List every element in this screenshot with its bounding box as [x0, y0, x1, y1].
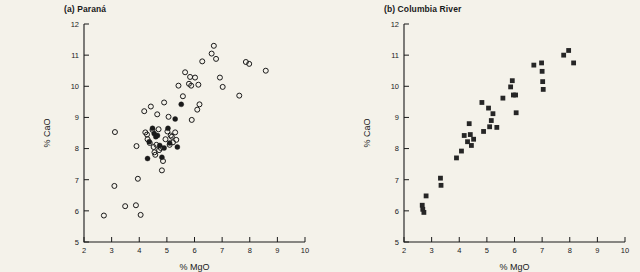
x-tick-label: 3 — [430, 246, 434, 255]
y-tick-label: 6 — [395, 207, 399, 216]
data-point-filled-square — [469, 143, 474, 148]
data-point-open-circle — [135, 176, 140, 181]
x-tick-label: 2 — [402, 246, 406, 255]
x-tick-label: 6 — [512, 246, 516, 255]
data-point-filled-square — [561, 53, 566, 58]
data-point-filled-square — [438, 176, 443, 181]
data-point-open-circle — [214, 56, 219, 61]
data-point-filled-circle — [155, 133, 160, 138]
x-axis-title: % MgO — [179, 262, 209, 272]
y-tick-label: 7 — [75, 176, 79, 185]
y-tick-label: 5 — [75, 238, 79, 247]
data-point-filled-square — [439, 183, 444, 188]
y-tick-label: 7 — [395, 176, 399, 185]
data-point-open-circle — [189, 117, 194, 122]
data-point-filled-square — [424, 194, 429, 199]
data-point-filled-square — [510, 78, 515, 83]
data-point-open-circle — [142, 109, 147, 114]
y-axis-title: % CaO — [42, 118, 52, 147]
y-tick-label: 12 — [71, 20, 79, 29]
data-point-open-circle — [148, 104, 153, 109]
data-point-filled-square — [571, 61, 576, 66]
data-point-filled-circle — [147, 139, 152, 144]
x-tick-label: 4 — [457, 246, 461, 255]
data-point-filled-square — [471, 137, 476, 142]
data-point-filled-square — [421, 210, 426, 215]
data-point-filled-square — [531, 63, 536, 68]
x-tick-label: 7 — [220, 246, 224, 255]
x-tick-label: 3 — [110, 246, 114, 255]
data-point-filled-square — [540, 79, 545, 84]
data-point-open-circle — [188, 74, 193, 79]
data-point-open-circle — [193, 75, 198, 80]
data-point-open-circle — [166, 114, 171, 119]
y-tick-label: 8 — [395, 144, 399, 153]
x-tick-label: 5 — [485, 246, 489, 255]
data-point-filled-square — [491, 111, 496, 116]
data-point-filled-circle — [167, 140, 172, 145]
data-point-open-circle — [155, 112, 160, 117]
y-tick-label: 10 — [71, 82, 79, 91]
data-point-filled-square — [508, 85, 513, 90]
data-point-open-circle — [211, 43, 216, 48]
data-point-filled-square — [481, 129, 486, 134]
y-tick-label: 9 — [395, 113, 399, 122]
data-point-filled-square — [487, 124, 492, 129]
data-point-filled-circle — [175, 145, 180, 150]
y-tick-label: 5 — [395, 238, 399, 247]
data-point-filled-square — [489, 118, 494, 123]
x-tick-label: 4 — [137, 246, 141, 255]
panel-b-plot: 234567891056789101112% MgO% CaO — [320, 0, 640, 272]
scatter-figure: (a) Paraná 234567891056789101112% MgO% C… — [0, 0, 640, 272]
data-point-filled-circle — [165, 126, 170, 131]
x-tick-label: 7 — [540, 246, 544, 255]
panel-parana: (a) Paraná 234567891056789101112% MgO% C… — [0, 0, 320, 272]
data-point-filled-circle — [150, 126, 155, 131]
data-point-open-circle — [217, 75, 222, 80]
series-open-circles — [101, 43, 268, 218]
data-point-open-circle — [123, 204, 128, 209]
data-point-open-circle — [134, 144, 139, 149]
data-point-open-circle — [220, 84, 225, 89]
x-tick-label: 6 — [192, 246, 196, 255]
x-tick-label: 2 — [82, 246, 86, 255]
data-point-filled-square — [541, 87, 546, 92]
axis-spines — [404, 24, 625, 242]
data-point-filled-square — [513, 93, 518, 98]
data-point-filled-circle — [173, 116, 178, 121]
y-tick-label: 6 — [75, 207, 79, 216]
data-point-filled-square — [462, 133, 467, 138]
data-point-open-circle — [180, 94, 185, 99]
data-point-open-circle — [176, 83, 181, 88]
x-tick-label: 9 — [275, 246, 279, 255]
data-point-open-circle — [163, 137, 168, 142]
y-tick-label: 9 — [75, 113, 79, 122]
data-point-open-circle — [183, 70, 188, 75]
data-point-open-circle — [173, 130, 178, 135]
data-point-open-circle — [138, 212, 143, 217]
x-axis-title: % MgO — [499, 262, 529, 272]
x-tick-label: 8 — [568, 246, 572, 255]
y-tick-label: 11 — [71, 51, 79, 60]
data-point-filled-square — [566, 48, 571, 53]
data-point-filled-square — [480, 100, 485, 105]
data-point-open-circle — [162, 100, 167, 105]
data-point-open-circle — [112, 183, 117, 188]
data-point-filled-circle — [145, 156, 150, 161]
y-axis-title: % CaO — [362, 118, 372, 147]
data-point-open-circle — [209, 51, 214, 56]
data-point-filled-circle — [162, 145, 167, 150]
data-point-open-circle — [263, 68, 268, 73]
data-point-filled-square — [539, 61, 544, 66]
data-point-open-circle — [156, 127, 161, 132]
x-tick-label: 10 — [301, 246, 309, 255]
data-point-filled-square — [494, 125, 499, 130]
data-point-open-circle — [159, 168, 164, 173]
data-point-open-circle — [112, 130, 117, 135]
data-point-filled-square — [500, 96, 505, 101]
x-tick-label: 9 — [595, 246, 599, 255]
series-filled-squares — [420, 48, 576, 215]
panel-columbia-river: (b) Columbia River 234567891056789101112… — [320, 0, 640, 272]
data-point-open-circle — [133, 203, 138, 208]
data-point-open-circle — [237, 93, 242, 98]
